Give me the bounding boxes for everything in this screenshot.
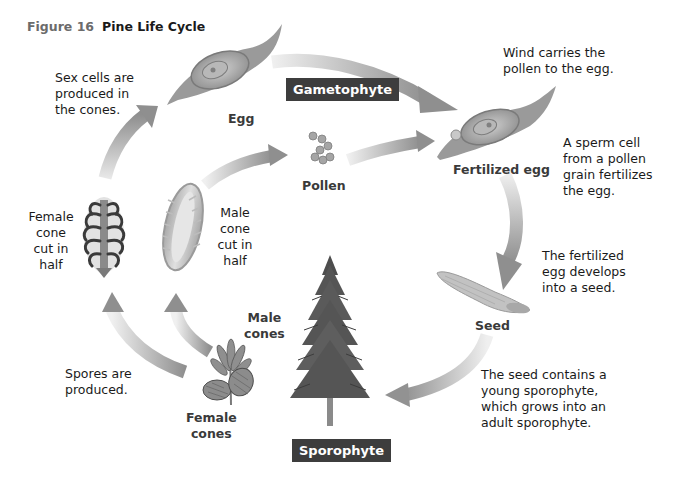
caption-fertilized-develops: The fertilized egg develops into a seed. <box>542 248 626 296</box>
stage-gametophyte: Gametophyte <box>286 78 399 101</box>
pollen-illustration <box>309 132 334 164</box>
caption-wind: Wind carries the pollen to the egg. <box>503 45 614 77</box>
figure-title: Figure 16Pine Life Cycle <box>27 19 205 34</box>
arrow-cone-to-pollen <box>205 144 288 185</box>
egg-illustration <box>167 24 282 105</box>
label-female-cone-cut: Female cone cut in half <box>27 209 75 273</box>
arrow-fertilized-to-seed <box>496 175 522 290</box>
caption-spores: Spores are produced. <box>65 366 132 398</box>
label-male-cone-cut: Male cone cut in half <box>215 205 255 269</box>
label-seed: Seed <box>475 318 510 334</box>
figure-name: Pine Life Cycle <box>102 19 205 34</box>
caption-sex-cells: Sex cells are produced in the cones. <box>55 70 134 118</box>
caption-seed-contains: The seed contains a young sporophyte, wh… <box>481 367 607 431</box>
label-fertilized-egg: Fertilized egg <box>453 162 550 178</box>
arrow-pollen-to-fertilized <box>348 130 435 160</box>
arrow-seed-to-sporophyte <box>385 335 487 407</box>
caption-sperm: A sperm cell from a pollen grain fertili… <box>563 135 652 199</box>
stage-sporophyte: Sporophyte <box>292 439 391 462</box>
fertilized-egg-illustration <box>437 86 556 160</box>
arrow-spores-to-male-cone <box>164 293 210 352</box>
label-pollen: Pollen <box>302 178 346 194</box>
male-cone-cut-illustration <box>156 180 210 274</box>
pine-tree-illustration <box>290 255 370 426</box>
label-male-cones: Male cones <box>244 310 285 342</box>
label-egg: Egg <box>228 111 254 127</box>
label-female-cones: Female cones <box>186 410 237 442</box>
seed-illustration <box>437 272 531 315</box>
figure-number: Figure 16 <box>27 19 94 34</box>
female-cone-cut-illustration <box>84 197 124 278</box>
